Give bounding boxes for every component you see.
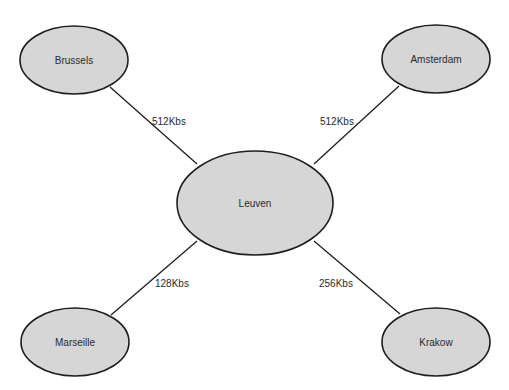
node-brussels[interactable]: Brussels	[20, 26, 128, 94]
node-label: Brussels	[55, 55, 93, 66]
link-bandwidth-label: 256Kbs	[319, 278, 353, 289]
node-label: Marseille	[55, 337, 95, 348]
link-marseille-leuven: 128Kbs	[111, 241, 197, 315]
link-bandwidth-label: 512Kbs	[152, 116, 186, 127]
node-krakow[interactable]: Krakow	[382, 308, 490, 376]
node-leuven[interactable]: Leuven	[177, 151, 333, 255]
node-amsterdam[interactable]: Amsterdam	[382, 25, 490, 93]
link-brussels-leuven: 512Kbs	[110, 87, 197, 164]
link-amsterdam-leuven: 512Kbs	[314, 86, 399, 164]
node-label: Amsterdam	[410, 54, 461, 65]
link-krakow-leuven: 256Kbs	[314, 241, 400, 314]
link-bandwidth-label: 128Kbs	[155, 278, 189, 289]
node-label: Krakow	[419, 337, 453, 348]
link-bandwidth-label: 512Kbs	[320, 116, 354, 127]
node-label: Leuven	[239, 198, 272, 209]
network-diagram: 512Kbs 512Kbs 128Kbs 256Kbs Brussels Ams…	[0, 0, 509, 390]
node-marseille[interactable]: Marseille	[21, 308, 129, 376]
